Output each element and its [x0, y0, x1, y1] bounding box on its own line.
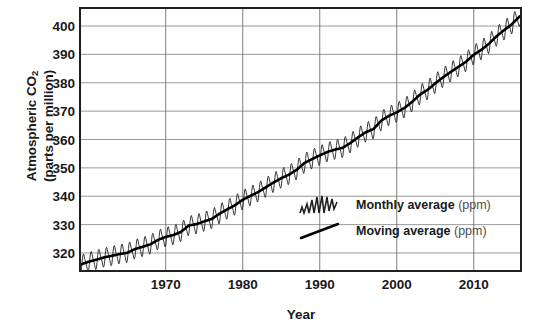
x-axis-tick-1980: 1980 [213, 277, 273, 292]
x-axis-tick-2010: 2010 [444, 277, 504, 292]
x-axis-tick-1990: 1990 [290, 277, 350, 292]
legend-row-monthly: Monthly average (ppm) [298, 192, 522, 218]
y-axis-tick-400: 400 [37, 19, 75, 34]
legend-label-monthly-unit: (ppm) [458, 198, 491, 212]
legend-label-monthly-strong: Monthly average [356, 198, 455, 212]
y-axis-tick-labels: 320330340350360370380390400 [33, 0, 75, 333]
legend-label-moving: Moving average (ppm) [356, 224, 487, 238]
y-axis-tick-390: 390 [37, 47, 75, 62]
x-axis-tick-1970: 1970 [136, 277, 196, 292]
y-axis-tick-330: 330 [37, 217, 75, 232]
x-axis-title: Year [79, 307, 523, 322]
legend-label-moving-unit: (ppm) [454, 224, 487, 238]
y-axis-tick-370: 370 [37, 104, 75, 119]
plot-area: Monthly average (ppm) Moving average (pp… [79, 7, 522, 272]
y-axis-tick-340: 340 [37, 189, 75, 204]
co2-keeling-curve-chart: Atmospheric CO2 (parts per million) 3203… [0, 0, 533, 333]
y-axis-tick-350: 350 [37, 160, 75, 175]
y-axis-tick-360: 360 [37, 132, 75, 147]
y-axis-tick-380: 380 [37, 75, 75, 90]
legend-row-moving: Moving average (ppm) [298, 218, 522, 244]
legend: Monthly average (ppm) Moving average (pp… [298, 192, 522, 244]
legend-sample-moving-icon [298, 219, 356, 243]
y-axis-tick-320: 320 [37, 245, 75, 260]
x-axis-tick-2000: 2000 [367, 277, 427, 292]
legend-sample-monthly-icon [298, 193, 356, 217]
legend-label-moving-strong: Moving average [356, 224, 450, 238]
legend-label-monthly: Monthly average (ppm) [356, 198, 491, 212]
